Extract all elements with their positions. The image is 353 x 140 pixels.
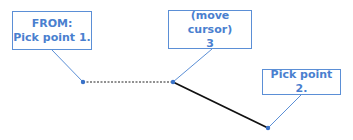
callout-move-line2: 3: [169, 37, 251, 51]
point-2-marker: [266, 126, 270, 130]
callout-pick2-line1: Pick point 2.: [263, 68, 340, 96]
callout-from: FROM: Pick point 1.: [12, 11, 92, 50]
callout-from-line1: FROM:: [13, 17, 91, 31]
callout-pick-point-2: Pick point 2.: [262, 69, 341, 95]
point-1-marker: [81, 80, 85, 84]
leader-line-move: [173, 49, 212, 82]
drawn-solid-line: [173, 82, 268, 128]
callout-move-line1: (move cursor): [169, 9, 251, 37]
callout-from-line2: Pick point 1.: [13, 31, 91, 45]
leader-line-pick2: [268, 95, 301, 128]
cursor-point-marker: [171, 80, 175, 84]
callout-move-cursor: (move cursor) 3: [168, 10, 252, 49]
leader-line-from: [52, 50, 83, 82]
